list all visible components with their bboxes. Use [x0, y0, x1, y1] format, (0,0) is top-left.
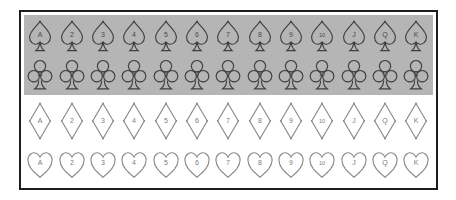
heart-icon: 6	[182, 148, 212, 179]
clubs-row: A2345678910JQK	[24, 58, 433, 90]
rank-label: 8	[258, 31, 262, 38]
spade-icon: K	[401, 20, 431, 52]
heart-3-cell: 3	[88, 148, 118, 179]
heart-J-cell: J	[339, 148, 369, 179]
spade-9-cell: 9	[276, 20, 306, 52]
heart-icon: Q	[370, 148, 400, 179]
club-icon: A	[25, 58, 55, 90]
club-J-cell: J	[339, 58, 369, 90]
rank-label: Q	[382, 158, 388, 166]
rank-label: Q	[382, 118, 388, 126]
spade-3-cell: 3	[88, 20, 118, 52]
diamond-icon: 2	[60, 102, 84, 140]
diamond-3-cell: 3	[88, 102, 118, 140]
heart-Q-cell: Q	[370, 148, 400, 179]
rank-label: 8	[258, 158, 262, 165]
spade-icon: 8	[245, 20, 275, 52]
spade-icon: 10	[307, 20, 337, 52]
spade-2-cell: 2	[57, 20, 87, 52]
rank-label: 6	[195, 118, 199, 125]
heart-icon: 10	[307, 148, 337, 179]
diamond-icon: J	[342, 102, 366, 140]
spade-8-cell: 8	[245, 20, 275, 52]
rank-label: 8	[258, 118, 262, 125]
club-icon: 6	[182, 58, 212, 90]
spade-7-cell: 7	[213, 20, 243, 52]
heart-icon: 2	[57, 148, 87, 179]
diamond-9-cell: 9	[276, 102, 306, 140]
heart-icon: 9	[276, 148, 306, 179]
heart-icon: J	[339, 148, 369, 179]
spade-icon: 2	[57, 20, 87, 52]
club-10-cell: 10	[307, 58, 337, 90]
spade-Q-cell: Q	[370, 20, 400, 52]
heart-icon: A	[25, 148, 55, 179]
club-4-cell: 4	[119, 58, 149, 90]
spade-4-cell: 4	[119, 20, 149, 52]
rank-label: 7	[226, 158, 230, 165]
spade-icon: 7	[213, 20, 243, 52]
diamond-icon: Q	[373, 102, 397, 140]
club-9-cell: 9	[276, 58, 306, 90]
club-icon: J	[339, 58, 369, 90]
heart-8-cell: 8	[245, 148, 275, 179]
club-2-cell: 2	[57, 58, 87, 90]
diamond-icon: K	[404, 102, 428, 140]
rank-label: K	[414, 31, 419, 38]
club-7-cell: 7	[213, 58, 243, 90]
diamond-6-cell: 6	[182, 102, 212, 140]
rank-label: 7	[226, 118, 230, 125]
diamond-J-cell: J	[339, 102, 369, 140]
club-5-cell: 5	[151, 58, 181, 90]
rank-label: 7	[226, 70, 230, 77]
club-icon: K	[401, 58, 431, 90]
rank-label: J	[352, 158, 356, 165]
rank-label: A	[38, 70, 43, 77]
club-icon: 4	[119, 58, 149, 90]
diamond-4-cell: 4	[119, 102, 149, 140]
diamond-2-cell: 2	[57, 102, 87, 140]
rank-label: 9	[289, 31, 293, 38]
heart-10-cell: 10	[307, 148, 337, 179]
rank-label: A	[38, 158, 43, 165]
club-3-cell: 3	[88, 58, 118, 90]
diamond-A-cell: A	[25, 102, 55, 140]
diamond-8-cell: 8	[245, 102, 275, 140]
rank-label: 10	[319, 32, 325, 38]
rank-label: J	[352, 70, 356, 77]
spade-K-cell: K	[401, 20, 431, 52]
spade-icon: 3	[88, 20, 118, 52]
rank-label: K	[414, 158, 419, 165]
club-icon: 2	[57, 58, 87, 90]
spade-icon: 6	[182, 20, 212, 52]
rank-label: 3	[101, 31, 105, 38]
heart-icon: 7	[213, 148, 243, 179]
rank-label: 9	[289, 118, 293, 125]
diamond-icon: 4	[122, 102, 146, 140]
heart-6-cell: 6	[182, 148, 212, 179]
club-icon: Q	[370, 58, 400, 90]
spades-row: A2345678910JQK	[24, 20, 433, 52]
heart-icon: 5	[151, 148, 181, 179]
diamonds-row: A2345678910JQK	[24, 102, 433, 140]
heart-icon: 8	[245, 148, 275, 179]
heart-A-cell: A	[25, 148, 55, 179]
diamond-7-cell: 7	[213, 102, 243, 140]
diamond-icon: 10	[310, 102, 334, 140]
diamond-5-cell: 5	[151, 102, 181, 140]
rank-label: 4	[132, 158, 136, 165]
heart-7-cell: 7	[213, 148, 243, 179]
shaded-panel: A2345678910JQK A2345678910JQK	[24, 15, 433, 95]
heart-icon: 3	[88, 148, 118, 179]
club-icon: 3	[88, 58, 118, 90]
rank-label: 2	[70, 70, 74, 77]
rank-label: 2	[70, 118, 74, 125]
diamond-icon: 9	[279, 102, 303, 140]
spade-J-cell: J	[339, 20, 369, 52]
rank-label: 5	[164, 158, 168, 165]
rank-label: 5	[164, 31, 168, 38]
diamond-icon: 7	[216, 102, 240, 140]
club-K-cell: K	[401, 58, 431, 90]
club-Q-cell: Q	[370, 58, 400, 90]
rank-label: 4	[132, 118, 136, 125]
